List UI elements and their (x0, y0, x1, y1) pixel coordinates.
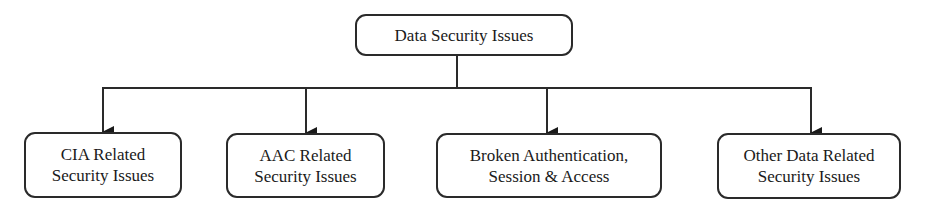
child-node-aac-related: AAC Related Security Issues (226, 133, 385, 198)
child-node-label: Broken Authentication, Session & Access (470, 145, 629, 187)
root-node-label: Data Security Issues (395, 25, 534, 46)
child-node-broken-authentication: Broken Authentication, Session & Access (436, 133, 662, 198)
child-node-cia-related: CIA Related Security Issues (24, 132, 182, 198)
child-node-label: CIA Related Security Issues (52, 144, 154, 186)
child-node-label: AAC Related Security Issues (254, 145, 356, 187)
root-node-data-security-issues: Data Security Issues (355, 14, 573, 56)
child-node-label: Other Data Related Security Issues (743, 145, 874, 187)
child-node-other-data-related: Other Data Related Security Issues (717, 133, 901, 199)
